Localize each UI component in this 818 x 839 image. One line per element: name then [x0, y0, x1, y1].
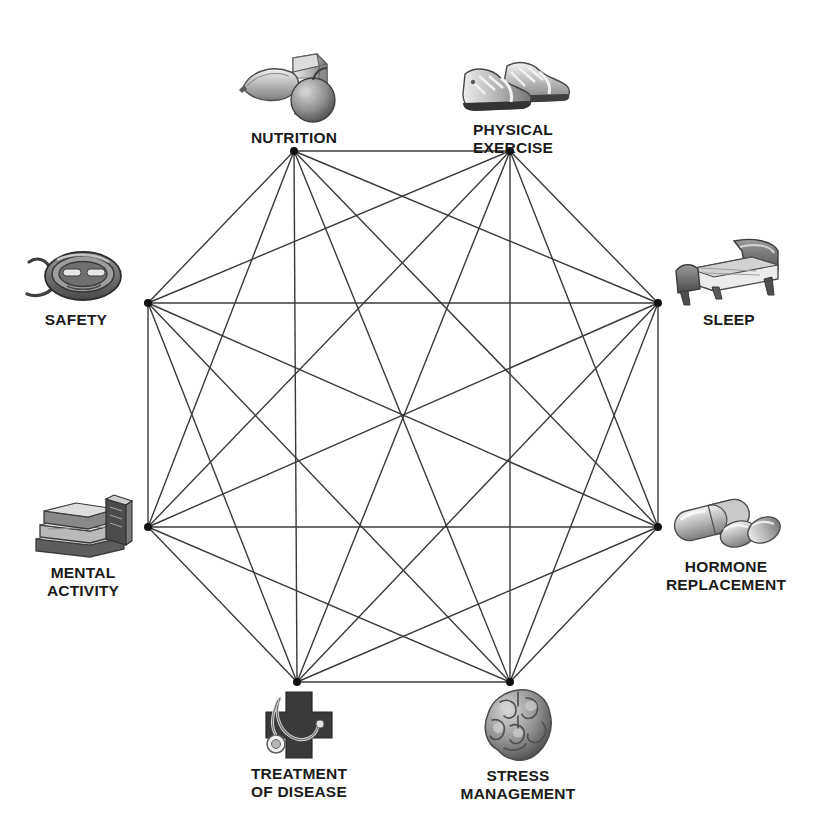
node-label-stress-management: STRESS MANAGEMENT: [461, 767, 576, 802]
graph-edge: [297, 527, 658, 682]
health-factors-network-diagram: NUTRITION PHYSICAL EXERCISE: [0, 0, 818, 839]
node-label-mental-activity: MENTAL ACTIVITY: [47, 564, 119, 599]
bed-icon: [624, 235, 818, 307]
medical-cross-stethoscope-icon: [194, 688, 404, 762]
node-nutrition[interactable]: NUTRITION: [189, 52, 399, 147]
node-label-treatment-of-disease: TREATMENT OF DISEASE: [251, 765, 347, 800]
node-label-nutrition: NUTRITION: [251, 129, 337, 146]
node-label-sleep: SLEEP: [703, 311, 755, 328]
graph-edge: [148, 303, 510, 682]
graph-vertex-treatment-of-disease[interactable]: [293, 678, 301, 686]
node-label-hormone-replacement: HORMONE REPLACEMENT: [666, 558, 786, 593]
graph-edge: [294, 151, 658, 527]
milk-banana-apple-icon: [189, 52, 399, 126]
node-label-safety: SAFETY: [45, 311, 107, 328]
graph-edge: [294, 151, 658, 303]
graph-vertex-nutrition[interactable]: [290, 147, 298, 155]
node-stress-management[interactable]: STRESS MANAGEMENT: [413, 686, 623, 803]
node-mental-activity[interactable]: MENTAL ACTIVITY: [0, 487, 188, 600]
stack-of-books-icon: [0, 487, 188, 561]
node-label-physical-exercise: PHYSICAL EXERCISE: [473, 121, 553, 156]
node-safety[interactable]: SAFETY: [0, 244, 181, 329]
graph-edge: [294, 151, 297, 682]
seatbelt-buckle-icon: [0, 244, 181, 308]
node-sleep[interactable]: SLEEP: [624, 235, 818, 329]
pills-capsule-icon: [621, 494, 818, 554]
running-shoes-icon: [408, 52, 618, 118]
node-treatment-of-disease[interactable]: TREATMENT OF DISEASE: [194, 688, 404, 801]
graph-edge: [510, 151, 658, 527]
graph-vertex-stress-management[interactable]: [506, 678, 514, 686]
node-physical-exercise[interactable]: PHYSICAL EXERCISE: [408, 52, 618, 157]
brain-icon: [413, 686, 623, 764]
graph-edge: [297, 303, 658, 682]
graph-edge: [148, 151, 294, 527]
graph-edge: [148, 151, 510, 527]
graph-edge: [148, 151, 510, 303]
graph-edge: [510, 303, 658, 682]
node-hormone-replacement[interactable]: HORMONE REPLACEMENT: [621, 494, 818, 594]
